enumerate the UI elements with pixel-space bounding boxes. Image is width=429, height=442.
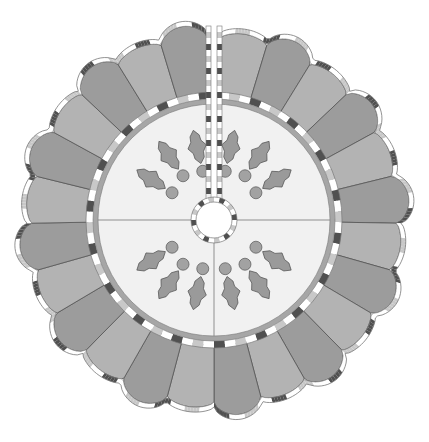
holly-berry-icon [219,263,231,275]
holly-berry-icon [197,263,209,275]
holly-berry-icon [177,170,189,182]
tree-skirt-svg [0,0,429,442]
holly-berry-icon [239,258,251,270]
center-hole-opening [196,202,232,238]
holly-berry-icon [239,170,251,182]
holly-berry-icon [177,258,189,270]
holly-berry-icon [250,241,262,253]
holly-berry-icon [166,241,178,253]
center-hole [191,197,237,243]
tree-skirt-diagram [0,0,429,442]
holly-berry-icon [250,187,262,199]
back-slit [206,18,222,199]
holly-berry-icon [166,187,178,199]
